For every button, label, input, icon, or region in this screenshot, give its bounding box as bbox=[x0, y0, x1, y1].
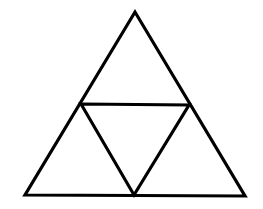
triangle-diagram bbox=[0, 0, 263, 209]
